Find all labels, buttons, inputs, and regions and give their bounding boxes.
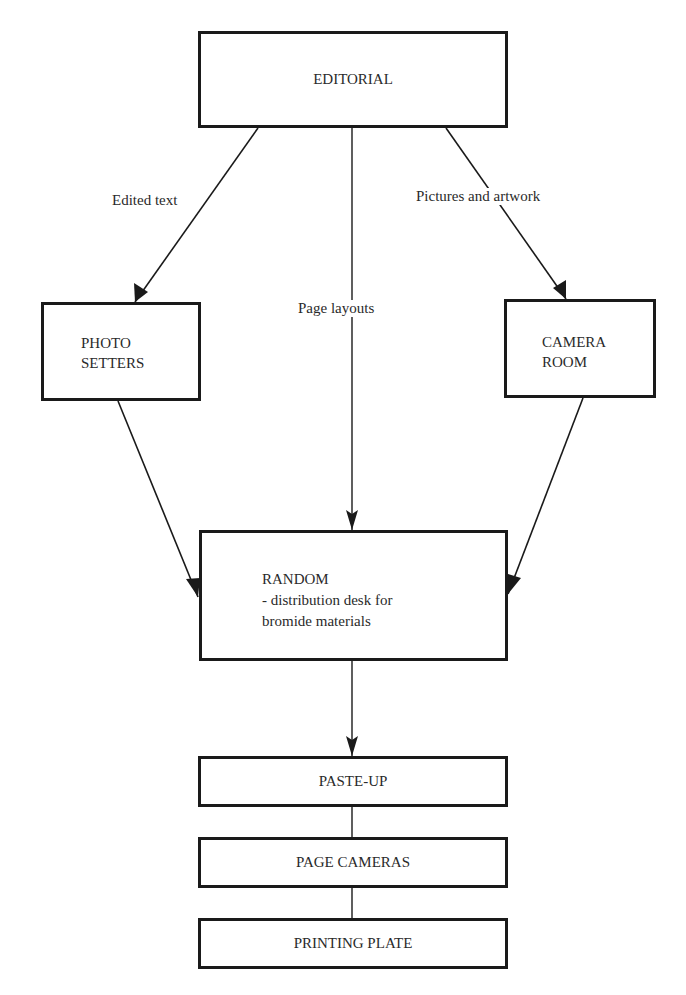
edge-photo-setters-random bbox=[118, 401, 198, 597]
node-paste-up-label: PASTE-UP bbox=[319, 773, 388, 790]
node-random: RANDOM - distribution desk for bromide m… bbox=[199, 530, 508, 661]
node-page-cameras: PAGE CAMERAS bbox=[198, 837, 508, 888]
edge-camera-room-random bbox=[508, 398, 583, 594]
node-random-desc-line2: bromide materials bbox=[262, 611, 392, 632]
edge-editorial-photo-setters bbox=[135, 128, 258, 302]
node-photo-setters: PHOTO SETTERS bbox=[41, 302, 201, 401]
node-random-desc-line1: - distribution desk for bbox=[262, 590, 392, 611]
node-camera-room: CAMERA ROOM bbox=[504, 299, 656, 398]
node-camera-room-line1: CAMERA bbox=[542, 332, 606, 352]
node-printing-plate-label: PRINTING PLATE bbox=[294, 935, 413, 952]
node-printing-plate: PRINTING PLATE bbox=[198, 918, 508, 969]
node-random-title: RANDOM bbox=[262, 569, 392, 590]
edge-label-pictures-artwork: Pictures and artwork bbox=[414, 188, 542, 205]
node-photo-setters-line2: SETTERS bbox=[81, 353, 144, 373]
node-page-cameras-label: PAGE CAMERAS bbox=[296, 854, 410, 871]
node-photo-setters-line1: PHOTO bbox=[81, 333, 144, 353]
node-camera-room-line2: ROOM bbox=[542, 352, 606, 372]
node-paste-up: PASTE-UP bbox=[198, 756, 508, 807]
node-editorial: EDITORIAL bbox=[198, 31, 508, 128]
node-editorial-label: EDITORIAL bbox=[313, 71, 393, 88]
edge-label-edited-text: Edited text bbox=[110, 192, 179, 209]
edge-label-page-layouts: Page layouts bbox=[296, 300, 376, 317]
edge-editorial-camera-room bbox=[446, 128, 566, 299]
